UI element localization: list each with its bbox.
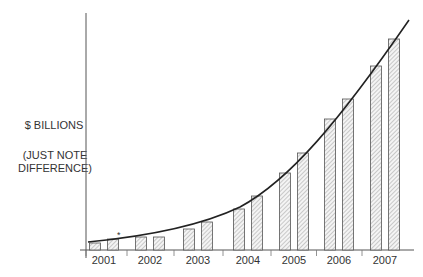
x-tick-2007: 2007 — [373, 254, 397, 266]
bar-2004-b — [252, 196, 263, 250]
bar-2001-b — [108, 239, 119, 250]
x-tick-2005: 2005 — [282, 254, 306, 266]
trend-curve — [88, 20, 409, 242]
bar-2007-a — [371, 66, 382, 250]
bar-2003-a — [184, 229, 195, 250]
bars-group — [90, 39, 400, 250]
bar-2006-a — [325, 119, 336, 250]
bar-2006-b — [343, 99, 354, 250]
bar-2002-a — [136, 237, 147, 250]
x-tick-2003: 2003 — [186, 254, 210, 266]
x-tick-labels: 2001200220032004200520062007 — [86, 250, 397, 266]
x-tick-2002: 2002 — [138, 254, 162, 266]
bar-2005-a — [280, 173, 291, 250]
x-tick-2004: 2004 — [236, 254, 260, 266]
x-tick-2001: 2001 — [92, 254, 116, 266]
bar-2004-a — [234, 209, 245, 250]
bar-2005-b — [298, 153, 309, 250]
x-tick-2006: 2006 — [327, 254, 351, 266]
bar-2003-b — [202, 222, 213, 250]
bar-2002-b — [154, 237, 165, 250]
bar-chart: 2001200220032004200520062007 * — [0, 0, 423, 277]
bar-2001-a — [90, 243, 101, 250]
asterisk-annotation: * — [117, 230, 121, 240]
bar-2007-b — [389, 39, 400, 250]
